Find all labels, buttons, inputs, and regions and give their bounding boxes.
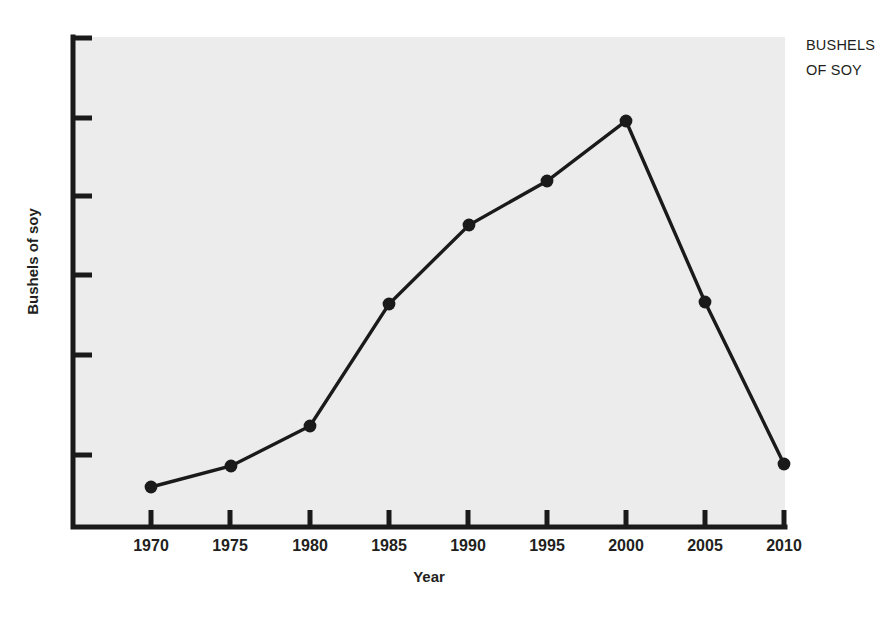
data-point-1995 [541,175,554,188]
x-axis-ticks [151,510,784,527]
series-polyline [151,121,784,487]
data-point-1975 [225,460,238,473]
x-axis-tick-label-1990: 1990 [433,537,503,555]
corner-annotation-line-2: OF SOY [806,58,893,83]
x-axis-tick-label-2010: 2010 [749,537,819,555]
data-point-2005 [699,296,712,309]
x-axis-tick-label-1985: 1985 [354,537,424,555]
x-axis-tick-label-1995: 1995 [512,537,582,555]
data-point-2010 [778,458,791,471]
x-axis-tick-label-1975: 1975 [195,537,265,555]
data-point-1990 [463,219,476,232]
data-point-markers [145,115,791,494]
x-axis-title: Year [73,568,785,585]
corner-annotation: BUSHELS OF SOY [806,33,893,83]
data-point-1970 [145,481,158,494]
y-axis-ticks [73,38,92,455]
chart-figure: Bushels of soy Year 19701975198019851990… [0,0,893,631]
x-axis-tick-label-1970: 1970 [116,537,186,555]
data-point-2000 [620,115,633,128]
corner-annotation-line-1: BUSHELS [806,33,893,58]
data-line-bushels-of-soy [151,121,784,487]
x-axis-tick-label-1980: 1980 [275,537,345,555]
axis-spines [73,37,785,527]
data-point-1985 [383,298,396,311]
y-axis-title: Bushels of soy [24,197,41,327]
x-axis-tick-label-2005: 2005 [670,537,740,555]
x-axis-tick-label-2000: 2000 [591,537,661,555]
data-point-1980 [304,420,317,433]
